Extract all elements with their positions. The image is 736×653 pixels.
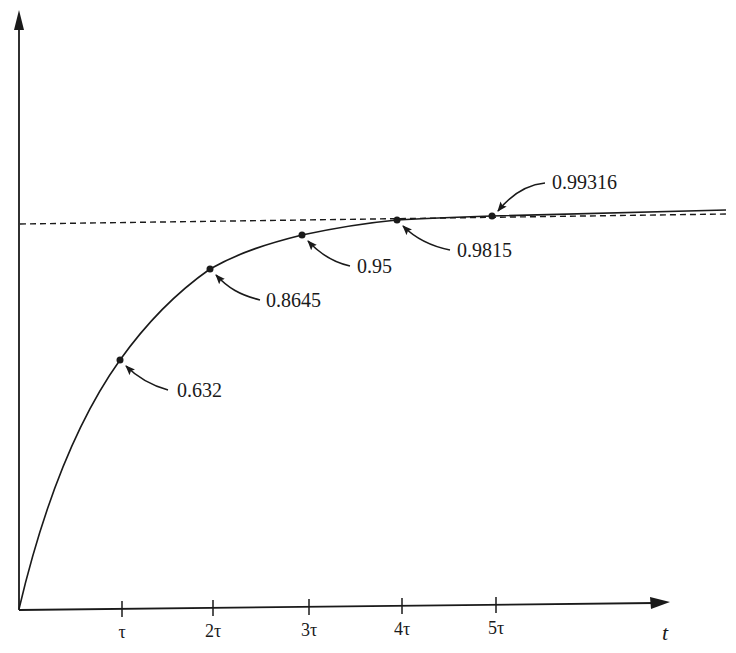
tick-label: 4τ — [394, 619, 410, 639]
arrow-icon — [126, 366, 168, 390]
point-label: 0.9815 — [457, 239, 512, 261]
data-point — [299, 232, 306, 239]
y-axis-arrow-icon — [14, 10, 24, 30]
data-point — [394, 217, 401, 224]
arrow-icon — [216, 275, 260, 300]
data-point — [117, 357, 124, 364]
annotation-arrows — [126, 183, 545, 390]
x-axis: τ 2τ 3τ 4τ 5τ t — [19, 597, 670, 645]
step-response-chart: τ 2τ 3τ 4τ 5τ t 0.632 0.8645 0.95 0.9815… — [0, 0, 736, 653]
point-label: 0.95 — [357, 255, 392, 277]
point-label: 0.99316 — [552, 171, 617, 193]
data-points — [117, 213, 496, 364]
tick-label: τ — [118, 622, 125, 642]
point-label: 0.632 — [177, 379, 222, 401]
x-axis-label: t — [662, 620, 669, 645]
data-point — [207, 266, 214, 273]
arrow-icon — [403, 226, 450, 250]
arrow-icon — [308, 241, 350, 266]
tick-label: 3τ — [301, 620, 317, 640]
x-axis-arrow-icon — [650, 597, 670, 609]
arrow-icon — [498, 183, 545, 211]
point-label: 0.8645 — [266, 289, 321, 311]
tick-label: 5τ — [488, 618, 504, 638]
y-axis — [14, 10, 24, 610]
tick-label: 2τ — [205, 621, 221, 641]
data-point — [489, 213, 496, 220]
